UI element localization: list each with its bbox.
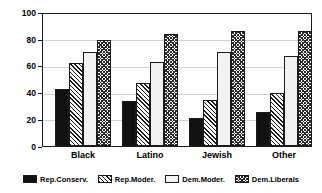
legend-label: Rep.Conserv.	[40, 175, 88, 184]
bar-other-dem-moder	[284, 56, 298, 146]
legend-swatch-icon	[23, 175, 37, 183]
y-tick-mark	[38, 147, 42, 148]
legend-item-dem-liberals: Dem.Liberals	[235, 175, 299, 184]
bars-layer	[43, 14, 311, 146]
x-tick-label-latino: Latino	[122, 150, 178, 161]
legend-swatch-icon	[235, 175, 249, 183]
y-tick-label: 20	[8, 116, 36, 124]
bar-jewish-dem-moder	[217, 52, 231, 146]
y-axis: 100 80 60 40 20 0	[0, 0, 36, 193]
x-tick-label-black: Black	[55, 150, 111, 161]
legend-swatch-icon	[165, 175, 179, 183]
bar-black-rep-moder	[69, 63, 83, 146]
legend-item-rep-moder: Rep.Moder.	[98, 175, 155, 184]
legend-item-rep-conserv: Rep.Conserv.	[23, 175, 88, 184]
legend-item-dem-moder: Dem.Moder.	[165, 175, 225, 184]
x-tick-label-jewish: Jewish	[189, 150, 245, 161]
legend-swatch-icon	[98, 175, 112, 183]
legend-label: Dem.Liberals	[252, 175, 299, 184]
y-tick-label: 40	[8, 89, 36, 97]
legend-label: Rep.Moder.	[115, 175, 155, 184]
chart-legend: Rep.Conserv. Rep.Moder. Dem.Moder. Dem.L…	[0, 172, 322, 186]
y-tick-label: 60	[8, 62, 36, 70]
bar-group-other	[256, 14, 312, 146]
x-tick-label-other: Other	[256, 150, 312, 161]
bar-black-dem-liberals	[97, 40, 111, 146]
bar-jewish-dem-liberals	[231, 31, 245, 146]
x-axis: Black Latino Jewish Other	[43, 150, 311, 164]
bar-latino-rep-conserv	[122, 101, 136, 146]
bar-black-rep-conserv	[55, 89, 69, 146]
bar-other-dem-liberals	[298, 31, 312, 146]
bar-latino-dem-moder	[150, 62, 164, 146]
y-tick-label: 100	[8, 9, 36, 17]
bar-jewish-rep-conserv	[189, 118, 203, 146]
bar-group-jewish	[189, 14, 245, 146]
y-tick-label: 0	[8, 143, 36, 151]
y-tick-label: 80	[8, 36, 36, 44]
bar-latino-rep-moder	[136, 83, 150, 146]
bar-other-rep-moder	[270, 93, 284, 146]
bar-other-rep-conserv	[256, 112, 270, 146]
bar-jewish-rep-moder	[203, 100, 217, 146]
bar-black-dem-moder	[83, 52, 97, 146]
bar-latino-dem-liberals	[164, 34, 178, 146]
bar-group-black	[55, 14, 111, 146]
legend-label: Dem.Moder.	[182, 175, 225, 184]
bar-group-latino	[122, 14, 178, 146]
bar-chart-figure: 100 80 60 40 20 0	[0, 0, 322, 193]
